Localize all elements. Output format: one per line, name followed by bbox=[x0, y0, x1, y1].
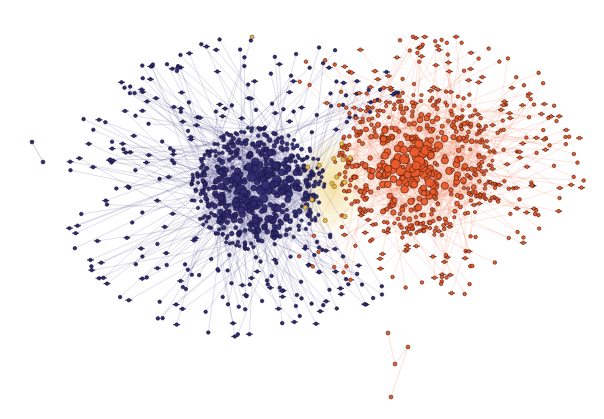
node bbox=[557, 209, 561, 213]
node bbox=[241, 197, 246, 202]
node bbox=[227, 142, 230, 145]
node bbox=[341, 151, 345, 155]
node bbox=[235, 148, 239, 152]
node bbox=[417, 60, 421, 64]
node bbox=[466, 211, 470, 215]
node bbox=[516, 230, 520, 234]
node bbox=[297, 254, 301, 258]
node bbox=[238, 244, 241, 247]
node bbox=[373, 126, 377, 130]
node bbox=[449, 188, 453, 192]
node bbox=[392, 198, 397, 203]
node bbox=[433, 229, 437, 233]
node bbox=[407, 122, 411, 126]
node bbox=[444, 253, 448, 257]
node bbox=[379, 267, 383, 271]
node bbox=[200, 189, 203, 192]
node bbox=[156, 199, 160, 203]
node bbox=[139, 247, 143, 251]
node bbox=[254, 206, 258, 210]
node bbox=[438, 98, 441, 101]
node bbox=[236, 232, 239, 235]
node bbox=[330, 181, 334, 185]
node bbox=[68, 226, 72, 230]
node bbox=[423, 35, 427, 39]
node bbox=[468, 93, 472, 97]
node bbox=[354, 116, 358, 120]
node bbox=[396, 217, 400, 221]
node bbox=[333, 63, 337, 67]
node bbox=[376, 109, 379, 112]
node bbox=[175, 323, 179, 327]
node bbox=[323, 182, 326, 185]
node bbox=[508, 112, 512, 116]
node bbox=[348, 111, 352, 115]
node bbox=[213, 149, 217, 153]
node bbox=[229, 185, 233, 189]
node bbox=[246, 126, 249, 129]
node bbox=[223, 216, 227, 220]
node bbox=[445, 41, 449, 45]
node bbox=[285, 196, 291, 202]
node bbox=[272, 212, 276, 216]
node bbox=[292, 110, 296, 114]
node bbox=[471, 264, 475, 268]
node bbox=[434, 116, 439, 121]
node bbox=[295, 164, 299, 168]
node bbox=[415, 140, 423, 148]
node bbox=[311, 265, 315, 269]
node bbox=[243, 131, 246, 134]
node bbox=[207, 331, 211, 335]
node bbox=[294, 52, 298, 56]
node bbox=[212, 213, 216, 217]
node bbox=[408, 224, 412, 228]
node bbox=[385, 70, 389, 74]
node bbox=[289, 255, 293, 259]
node bbox=[341, 103, 345, 107]
node bbox=[419, 112, 424, 117]
node bbox=[227, 133, 230, 136]
node bbox=[218, 103, 222, 107]
node bbox=[394, 91, 398, 95]
node bbox=[263, 126, 266, 129]
node bbox=[140, 64, 144, 68]
node bbox=[463, 256, 467, 260]
node bbox=[477, 202, 481, 206]
node bbox=[493, 186, 497, 190]
node bbox=[295, 293, 299, 297]
node bbox=[312, 234, 316, 238]
node bbox=[171, 212, 175, 216]
node bbox=[305, 165, 309, 169]
node bbox=[282, 179, 288, 185]
node bbox=[243, 64, 247, 68]
node bbox=[68, 160, 72, 164]
node bbox=[204, 166, 208, 170]
node bbox=[299, 280, 303, 284]
node bbox=[284, 216, 289, 221]
node bbox=[407, 217, 412, 222]
node bbox=[268, 203, 273, 208]
node bbox=[181, 307, 185, 311]
node bbox=[282, 107, 286, 111]
node bbox=[149, 77, 153, 81]
node bbox=[237, 305, 241, 309]
node bbox=[406, 247, 410, 251]
node bbox=[161, 316, 165, 320]
node bbox=[544, 148, 548, 152]
node bbox=[194, 236, 198, 240]
node bbox=[415, 204, 421, 210]
node bbox=[381, 152, 388, 159]
node bbox=[97, 118, 101, 122]
node bbox=[311, 172, 315, 176]
node bbox=[186, 268, 190, 272]
node bbox=[82, 117, 86, 121]
node bbox=[450, 291, 454, 295]
node bbox=[386, 228, 389, 231]
node bbox=[522, 236, 526, 240]
node bbox=[297, 224, 301, 228]
node bbox=[521, 241, 525, 245]
node bbox=[195, 123, 199, 127]
node bbox=[445, 104, 449, 108]
node bbox=[485, 139, 489, 143]
node bbox=[391, 210, 397, 216]
